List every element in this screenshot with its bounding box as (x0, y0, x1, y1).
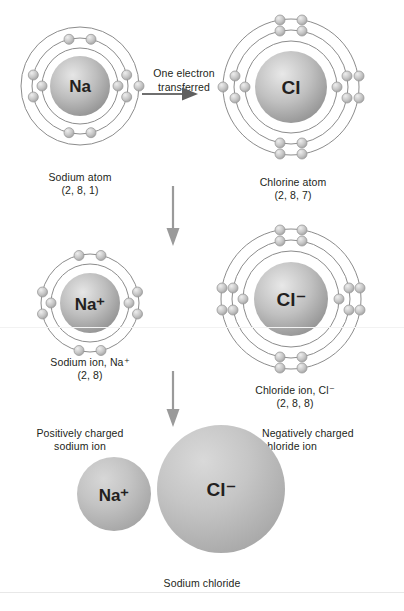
electron-transfer-label-line1: One electron (153, 67, 214, 79)
chloride-ion-diagram: Cl⁻ (216, 224, 366, 374)
chlorine-atom-caption-main: Chlorine atom (260, 176, 327, 188)
sodium-ion-sphere: Na⁺ (76, 456, 152, 532)
electron (113, 81, 123, 91)
electron (240, 82, 250, 92)
sodium-chloride-caption: Sodium chloride (122, 564, 282, 590)
electron (133, 309, 143, 319)
electron (96, 251, 106, 261)
chlorine-atom-caption: Chlorine atom (2, 8, 7) (223, 163, 363, 215)
electron (37, 81, 47, 91)
page-scan-artifact-line (0, 327, 404, 328)
sodium-atom-diagram: Na (16, 22, 144, 150)
sodium-ion-caption-config: (2, 8) (20, 369, 160, 382)
arrow-down-to-ions-icon (165, 186, 181, 250)
electron (38, 287, 48, 297)
valence-electron (354, 93, 364, 103)
electron (86, 128, 96, 138)
electron (64, 34, 74, 44)
electron (342, 71, 352, 81)
electron (74, 251, 84, 261)
valence-electron (297, 15, 307, 25)
sphere-symbol: Cl⁻ (207, 479, 236, 500)
chloride-ion-svg: Cl⁻ (216, 224, 366, 374)
arrow-down-to-compound-icon (165, 371, 181, 431)
electron (344, 305, 354, 315)
sodium-ion-svg: Na⁺ (36, 249, 144, 357)
arrow-right-icon (142, 86, 198, 106)
positive-ion-label-line1: Positively charged (36, 427, 123, 439)
sodium-atom-caption-main: Sodium atom (49, 171, 112, 183)
electron (297, 26, 307, 36)
valence-electron (354, 71, 364, 81)
chloride-ion-sphere: Cl⁻ (156, 424, 286, 554)
electron (297, 138, 307, 148)
electron (297, 352, 307, 362)
electron (275, 236, 285, 246)
electron (275, 138, 285, 148)
nucleus-symbol: Na⁺ (75, 295, 106, 314)
electron (334, 294, 344, 304)
sodium-atom-svg: Na (16, 22, 144, 150)
sodium-ion-diagram: Na⁺ (36, 249, 144, 357)
valence-electron (297, 225, 307, 235)
nucleus-symbol: Cl (282, 77, 301, 98)
chloride-ion-caption-config: (2, 8, 8) (221, 397, 369, 410)
sodium-ion-caption-main: Sodium ion, Na⁺ (50, 356, 129, 368)
chlorine-atom-caption-config: (2, 8, 7) (223, 189, 363, 202)
electron (28, 70, 38, 80)
electron (38, 309, 48, 319)
valence-electron (297, 149, 307, 159)
sodium-atom-caption-config: (2, 8, 1) (12, 184, 148, 197)
chlorine-atom-diagram: Cl (218, 14, 364, 160)
electron (230, 93, 240, 103)
electron (122, 70, 132, 80)
valence-electron (355, 283, 365, 293)
electron (297, 236, 307, 246)
electron (64, 128, 74, 138)
electron (228, 283, 238, 293)
sodium-atom-caption: Sodium atom (2, 8, 1) (12, 158, 148, 210)
electron (122, 92, 132, 102)
electron (275, 352, 285, 362)
valence-electron (217, 305, 227, 315)
diagram-canvas: Na Sodium atom (2, 8, 1) One electron tr… (0, 0, 404, 611)
valence-electron (217, 283, 227, 293)
chloride-ion-caption-main: Chloride ion, Cl⁻ (255, 384, 334, 396)
sphere-symbol: Na⁺ (99, 486, 130, 505)
valence-electron (275, 149, 285, 159)
positive-ion-label-line2: sodium ion (12, 440, 148, 453)
valence-electron (275, 225, 285, 235)
electron (275, 26, 285, 36)
electron (230, 71, 240, 81)
electron (238, 294, 248, 304)
electron (124, 298, 134, 308)
electron (28, 92, 38, 102)
electron (342, 93, 352, 103)
electron (46, 298, 56, 308)
chlorine-atom-svg: Cl (218, 14, 364, 160)
nucleus-symbol: Na (69, 77, 91, 96)
valence-electron (355, 305, 365, 315)
valence-electron (275, 15, 285, 25)
sodium-ion-caption: Sodium ion, Na⁺ (2, 8) (20, 343, 160, 395)
nucleus-symbol: Cl⁻ (277, 289, 306, 310)
electron (332, 82, 342, 92)
sodium-chloride-caption-text: Sodium chloride (164, 577, 241, 589)
electron (228, 305, 238, 315)
electron (86, 34, 96, 44)
electron (344, 283, 354, 293)
valence-electron (218, 82, 228, 92)
bottom-divider (0, 592, 404, 593)
electron (133, 287, 143, 297)
